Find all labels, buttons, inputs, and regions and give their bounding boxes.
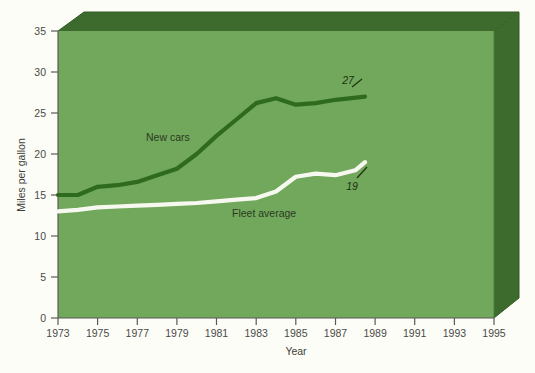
new-cars-series-label: New cars [146, 131, 190, 143]
y-tick-label: 0 [40, 312, 46, 324]
y-tick-label: 10 [34, 230, 46, 242]
y-tick-label: 25 [34, 107, 46, 119]
x-tick-label: 1983 [245, 327, 269, 339]
chart-page: 0 5 10 15 20 25 30 35 1973 197 [0, 0, 535, 373]
plot-top-bevel [58, 12, 519, 31]
fleet-average-end-value: 19 [346, 180, 358, 192]
new-cars-end-value: 27 [341, 74, 355, 86]
y-axis-title: Miles per gallon [15, 138, 27, 212]
fleet-average-series-label: Fleet average [232, 207, 296, 219]
x-tick-label: 1977 [126, 327, 150, 339]
plot-area-face [58, 31, 494, 318]
y-tick-label: 30 [34, 66, 46, 78]
x-tick-label: 1979 [165, 327, 189, 339]
plot-right-bevel [494, 12, 519, 318]
x-tick-label: 1973 [46, 327, 70, 339]
x-tick-label: 1995 [482, 327, 506, 339]
x-tick-label: 1985 [284, 327, 308, 339]
y-tick-label: 20 [34, 148, 46, 160]
x-axis-title: Year [285, 345, 307, 357]
x-tick-label: 1975 [86, 327, 110, 339]
y-tick-label: 15 [34, 189, 46, 201]
x-tick-label: 1989 [363, 327, 387, 339]
x-tick-label: 1981 [205, 327, 229, 339]
x-tick-label: 1987 [324, 327, 348, 339]
y-tick-label: 35 [34, 25, 46, 37]
x-tick-label: 1991 [403, 327, 427, 339]
y-tick-label: 5 [40, 271, 46, 283]
x-tick-label: 1993 [443, 327, 467, 339]
fuel-economy-line-chart: 0 5 10 15 20 25 30 35 1973 197 [0, 0, 535, 373]
